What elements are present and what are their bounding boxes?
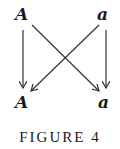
node-top-right: a <box>97 6 108 23</box>
node-bottom-right: a <box>98 94 109 111</box>
figure-caption: FIGURE 4 <box>0 129 120 146</box>
diagram: A a A a FIGURE 4 <box>0 0 120 149</box>
node-bottom-left: A <box>15 94 28 111</box>
node-top-left: A <box>15 6 28 23</box>
